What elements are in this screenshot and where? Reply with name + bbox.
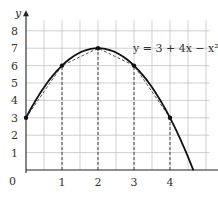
- y-tick-label: 3: [11, 112, 18, 125]
- data-point: [24, 116, 28, 120]
- axes: [23, 10, 218, 173]
- y-tick-label: 4: [11, 94, 18, 107]
- equation-label: y = 3 + 4x − x²: [132, 42, 218, 55]
- x-tick-label: 3: [131, 176, 138, 189]
- y-tick-label: 7: [11, 42, 18, 55]
- origin-label: 0: [9, 175, 16, 188]
- parabola-curve: [26, 48, 193, 170]
- x-tick-label: 4: [167, 176, 174, 189]
- y-tick-label: 5: [11, 77, 18, 90]
- y-tick-label: 2: [11, 129, 18, 142]
- y-tick-label: 8: [11, 25, 18, 38]
- data-point: [60, 63, 64, 67]
- y-tick-label: 1: [11, 147, 18, 160]
- data-point: [132, 63, 136, 67]
- data-point: [96, 46, 100, 50]
- x-tick-label: 1: [59, 176, 66, 189]
- chart: 1234123456780xy y = 3 + 4x − x²: [0, 0, 218, 197]
- x-tick-label: 2: [95, 176, 102, 189]
- labels: 1234123456780xy: [9, 7, 218, 189]
- y-tick-label: 6: [11, 60, 18, 73]
- curve: [26, 48, 193, 170]
- data-point: [168, 116, 172, 120]
- y-axis-label: y: [14, 7, 22, 20]
- y-axis-arrow: [23, 10, 29, 16]
